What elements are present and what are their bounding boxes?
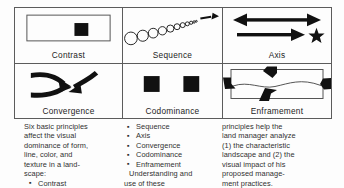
caption-line: (1) the characteristic [222, 141, 330, 150]
caption-bullet: Convergence [124, 141, 218, 150]
cell-label-sequence: Sequence [123, 50, 222, 61]
caption-bullet: Sequence [124, 122, 218, 131]
visual-principles-figure: Contrast [14, 7, 332, 119]
caption-line: use of these [124, 179, 218, 188]
caption-bullet: Enframement [124, 160, 218, 169]
figure-cell-axis: Axis [223, 8, 331, 64]
caption-bullet: Axis [124, 131, 218, 140]
figure-cell-sequence: Sequence [123, 8, 223, 64]
figure-page: Contrast [0, 0, 344, 188]
caption-line: principles help the [222, 122, 330, 131]
cell-label-convergence: Convergence [15, 106, 122, 117]
figure-cell-convergence: Convergence [15, 64, 123, 119]
axis-icon [223, 8, 331, 48]
convergence-icon [15, 64, 122, 104]
caption-line: Six basic principles [24, 122, 118, 131]
caption-line: Understanding and [124, 169, 218, 178]
contrast-icon [15, 8, 122, 48]
caption-line: ment practices. [222, 179, 330, 188]
cell-label-axis: Axis [223, 50, 331, 61]
cell-label-enframement: Enframement [223, 106, 331, 117]
codominance-icon [123, 64, 222, 104]
figure-cell-contrast: Contrast [15, 8, 123, 64]
caption-column-1: Six basic principles affect the visual d… [14, 122, 122, 188]
caption-column-3: principles help the land manager analyze… [222, 122, 334, 188]
caption-line: affect the visual [24, 131, 118, 140]
caption-line: visual impact of his [222, 160, 330, 169]
caption-line: landscape and (2) the [222, 150, 330, 159]
caption-column-2: Sequence Axis Convergence Codominance En… [122, 122, 222, 188]
caption-line: line, color, and [24, 150, 118, 159]
figure-cell-enframement: Enframement [223, 64, 331, 119]
caption-line: land manager analyze [222, 131, 330, 140]
caption-bullet: Codominance [124, 150, 218, 159]
enframement-icon [223, 64, 331, 104]
caption-line: scape: [24, 169, 118, 178]
caption-line: proposed manage- [222, 169, 330, 178]
caption-line: texture in a land- [24, 160, 118, 169]
cell-label-contrast: Contrast [15, 50, 122, 61]
sequence-icon [123, 8, 222, 48]
cell-label-codominance: Codominance [123, 106, 222, 117]
figure-caption: Six basic principles affect the visual d… [14, 122, 334, 188]
caption-bullet: Contrast [24, 179, 118, 188]
caption-line: dominance of form, [24, 141, 118, 150]
figure-cell-codominance: Codominance [123, 64, 223, 119]
